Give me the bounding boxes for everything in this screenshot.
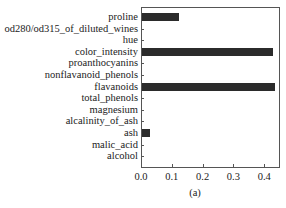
bar bbox=[142, 83, 275, 91]
x-tick-label: 0.1 bbox=[157, 171, 187, 182]
x-tick-mark bbox=[233, 164, 234, 167]
x-tick-label: 0.3 bbox=[218, 171, 248, 182]
feature-importance-chart: prolineod280/od315_of_diluted_wineshueco… bbox=[0, 0, 286, 208]
x-tick-mark bbox=[172, 164, 173, 167]
y-tick-label: malic_acid bbox=[92, 139, 138, 150]
y-tick-mark bbox=[141, 145, 144, 146]
x-tick-label: 0.4 bbox=[249, 171, 279, 182]
y-tick-mark bbox=[141, 121, 144, 122]
y-tick-label: proline bbox=[108, 11, 138, 22]
y-tick-mark bbox=[141, 75, 144, 76]
y-tick-label: od280/od315_of_diluted_wines bbox=[4, 23, 138, 34]
y-tick-label: alcalinity_of_ash bbox=[66, 115, 138, 126]
x-tick-label: 0.0 bbox=[126, 171, 156, 182]
y-tick-label: ash bbox=[124, 127, 138, 138]
y-tick-label: alcohol bbox=[107, 150, 138, 161]
x-tick-mark bbox=[141, 164, 142, 167]
y-tick-mark bbox=[141, 29, 144, 30]
y-tick-label: proanthocyanins bbox=[69, 57, 138, 68]
x-tick-label: 0.2 bbox=[188, 171, 218, 182]
y-tick-mark bbox=[141, 110, 144, 111]
y-tick-mark bbox=[141, 40, 144, 41]
y-tick-mark bbox=[141, 98, 144, 99]
bar bbox=[142, 48, 273, 56]
x-tick-mark bbox=[203, 164, 204, 167]
y-tick-label: magnesium bbox=[90, 104, 138, 115]
y-tick-label: flavanoids bbox=[94, 81, 138, 92]
y-tick-label: nonflavanoid_phenols bbox=[45, 69, 138, 80]
bar bbox=[142, 13, 179, 21]
y-tick-mark bbox=[141, 156, 144, 157]
y-tick-label: color_intensity bbox=[75, 46, 138, 57]
y-tick-label: hue bbox=[123, 34, 138, 45]
y-tick-mark bbox=[141, 63, 144, 64]
x-tick-mark bbox=[264, 164, 265, 167]
y-tick-label: total_phenols bbox=[81, 92, 138, 103]
chart-caption: (a) bbox=[180, 187, 210, 198]
bar bbox=[142, 129, 150, 137]
